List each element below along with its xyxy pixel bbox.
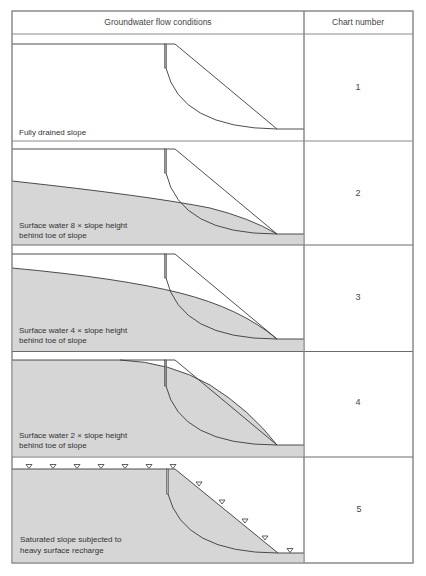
slope-profile [12, 44, 304, 129]
water-table-marker-icon [50, 465, 56, 469]
row-5-label-line-1: Saturated slope subjected to [20, 535, 122, 544]
water-table-marker-icon [219, 500, 225, 504]
row-2-chart-number: 2 [355, 188, 360, 198]
water-table-marker-icon [122, 465, 128, 469]
row-1-chart-number: 1 [355, 82, 360, 92]
row-3-label-line-2: behind toe of slope [19, 336, 87, 345]
row-4-label-line-1: Surface water 2 × slope height [19, 431, 128, 440]
row-4-chart-number: 4 [355, 397, 360, 407]
tension-crack [167, 469, 169, 494]
row-4-label-line-2: behind toe of slope [19, 441, 87, 450]
row-2-label-line-2: behind toe of slope [19, 231, 87, 240]
tension-crack [165, 254, 167, 278]
row-3-chart-number: 3 [355, 292, 360, 302]
groundwater-chart-table: Groundwater flow conditions Chart number… [0, 0, 426, 576]
water-table-marker-icon [242, 519, 248, 523]
water-table-marker-icon [170, 465, 176, 469]
tension-crack [165, 360, 167, 386]
header-conditions: Groundwater flow conditions [104, 17, 211, 27]
row-5-chart-number: 5 [356, 504, 361, 514]
water-table-marker-icon [262, 536, 268, 540]
water-table-marker-icon [98, 465, 104, 469]
row-1-label: Fully drained slope [19, 128, 87, 137]
water-table-marker-icon [287, 549, 293, 553]
row-3-label-line-1: Surface water 4 × slope height [19, 326, 128, 335]
header-chart-number: Chart number [332, 17, 384, 27]
row-2-label-line-1: Surface water 8 × slope height [19, 221, 128, 230]
tension-crack [165, 149, 167, 173]
row-5-label-line-2: heavy surface recharge [20, 546, 104, 555]
row-1-diagram [12, 44, 413, 141]
water-table-marker-icon [26, 465, 32, 469]
water-table-marker-icon [146, 465, 152, 469]
water-table-marker-icon [196, 482, 202, 486]
tension-crack [165, 44, 167, 68]
water-table-marker-icon [74, 465, 80, 469]
slip-circle [166, 68, 277, 129]
